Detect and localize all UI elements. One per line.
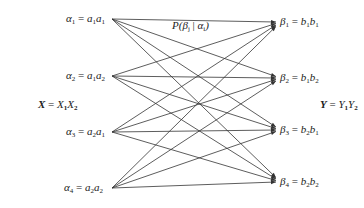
transition-edges	[112, 19, 276, 188]
edge-alpha2-beta3	[112, 76, 276, 129]
input-set-label: X = X1X2	[38, 98, 78, 114]
edge-alpha4-beta2	[112, 81, 276, 188]
input-node-alpha3: α3 = a2a1	[66, 125, 105, 141]
output-node-beta4: β4 = b2b2	[280, 175, 319, 191]
edge-alpha1-beta3	[112, 19, 276, 127]
edge-alpha4-beta4	[112, 182, 276, 188]
output-set-label: Y = Y1Y2	[320, 98, 358, 114]
edge-alpha3-beta2	[112, 79, 276, 132]
transition-probability-label: P(βj | αi)	[172, 19, 209, 35]
output-node-beta1: β1 = b1b1	[280, 15, 319, 31]
output-node-beta2: β2 = b1b2	[280, 71, 319, 87]
edge-alpha2-beta2	[112, 76, 276, 78]
input-node-alpha4: α4 = a2a2	[64, 181, 103, 197]
edge-alpha3-beta3	[112, 130, 276, 132]
edge-alpha4-beta3	[112, 131, 276, 188]
output-node-beta3: β3 = b2b1	[280, 123, 319, 139]
input-node-alpha2: α2 = a1a2	[66, 69, 105, 85]
edge-alpha3-beta4	[112, 132, 276, 181]
input-node-alpha1: α1 = a1a1	[66, 12, 105, 28]
edge-alpha1-beta4	[112, 19, 276, 178]
edge-alpha3-beta1	[112, 25, 276, 132]
output-set-symbol: Y	[320, 98, 327, 110]
